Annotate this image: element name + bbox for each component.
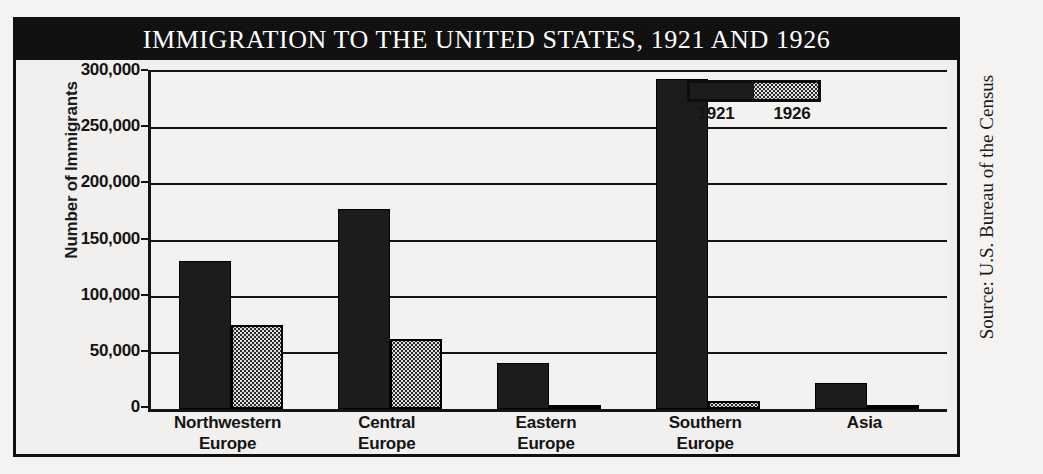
- x-axis-label-line: Eastern: [466, 412, 625, 433]
- x-axis-label: EasternEurope: [466, 412, 625, 454]
- x-axis-label-line: Northwestern: [148, 412, 307, 433]
- legend-swatch-1921: [690, 83, 754, 99]
- x-axis-label-line: Central: [307, 412, 466, 433]
- y-axis-tick-label: 300,000: [81, 60, 140, 80]
- x-axis-label: SouthernEurope: [626, 412, 785, 454]
- y-axis-tick-label: 0: [131, 397, 140, 417]
- title-banner: IMMIGRATION TO THE UNITED STATES, 1921 A…: [16, 20, 957, 60]
- x-axis-category-labels: NorthwesternEuropeCentralEuropeEasternEu…: [148, 412, 944, 472]
- bar-1926-asia: [867, 405, 919, 409]
- y-axis-tick-mark: [141, 181, 148, 183]
- y-axis-tick-label: 250,000: [81, 116, 140, 136]
- bar-1921-northwestern-europe: [179, 261, 231, 409]
- bar-group: [179, 72, 283, 409]
- bar-group: [338, 72, 442, 409]
- legend-label-1926: 1926: [754, 104, 830, 124]
- legend-label-1921: 1921: [678, 104, 754, 124]
- source-credit: Source: U.S. Bureau of the Census: [976, 57, 998, 357]
- legend-labels: 1921 1926: [678, 104, 830, 124]
- x-axis-label-line: Europe: [626, 433, 785, 454]
- y-axis-tick-labels: 300,000250,000200,000150,000100,00050,00…: [52, 60, 148, 407]
- x-axis-label: NorthwesternEurope: [148, 412, 307, 454]
- y-axis-tick-mark: [141, 350, 148, 352]
- bar-group: [497, 72, 601, 409]
- bar-1926-eastern-europe: [549, 405, 601, 409]
- x-axis-label-line: Europe: [307, 433, 466, 454]
- x-axis-label-line: Southern: [626, 412, 785, 433]
- bar-1921-central-europe: [338, 209, 390, 409]
- bar-group: [815, 72, 919, 409]
- chart-body: Number of Immigrants 300,000250,000200,0…: [16, 60, 957, 454]
- y-axis-tick-mark: [141, 69, 148, 71]
- y-axis-tick-label: 50,000: [90, 341, 140, 361]
- x-axis-label: Asia: [785, 412, 944, 433]
- bar-1926-southern-europe: [708, 401, 760, 409]
- legend: 1921 1926: [678, 80, 830, 124]
- legend-swatch-1926: [754, 83, 818, 99]
- x-axis-label-line: Asia: [785, 412, 944, 433]
- y-axis-tick-label: 200,000: [81, 172, 140, 192]
- bar-1921-eastern-europe: [497, 363, 549, 409]
- bar-1926-central-europe: [390, 339, 442, 409]
- y-axis-tick-label: 100,000: [81, 285, 140, 305]
- y-axis-tick-mark: [141, 238, 148, 240]
- x-axis-label: CentralEurope: [307, 412, 466, 454]
- chart-title: IMMIGRATION TO THE UNITED STATES, 1921 A…: [143, 25, 831, 55]
- y-axis-tick-mark: [141, 125, 148, 127]
- page-background: IMMIGRATION TO THE UNITED STATES, 1921 A…: [0, 0, 1043, 474]
- bar-1921-asia: [815, 383, 867, 409]
- x-axis-label-line: Europe: [148, 433, 307, 454]
- x-axis-label-line: Europe: [466, 433, 625, 454]
- y-axis-tick-mark: [141, 294, 148, 296]
- y-axis-tick-mark: [141, 406, 148, 408]
- figure-frame: IMMIGRATION TO THE UNITED STATES, 1921 A…: [13, 17, 960, 457]
- bar-1921-southern-europe: [656, 79, 708, 409]
- bar-1926-northwestern-europe: [231, 325, 283, 409]
- y-axis-tick-label: 150,000: [81, 229, 140, 249]
- legend-swatches: [687, 80, 821, 102]
